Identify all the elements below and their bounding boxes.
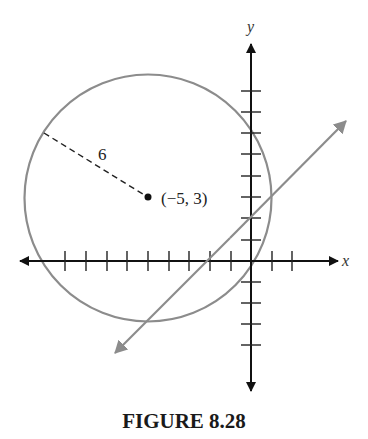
- radius-dashed-line: [44, 133, 146, 196]
- figure-diagram: y x (−5, 3) 6: [0, 0, 368, 439]
- center-point: [145, 194, 152, 201]
- x-axis-label: x: [341, 252, 349, 269]
- line-y-equals-x-plus-2: [115, 121, 346, 353]
- figure-caption: FIGURE 8.28: [0, 409, 368, 434]
- x-axis: [20, 251, 338, 271]
- radius-label: 6: [98, 145, 107, 164]
- center-label: (−5, 3): [161, 189, 207, 208]
- y-axis-label: y: [245, 18, 255, 36]
